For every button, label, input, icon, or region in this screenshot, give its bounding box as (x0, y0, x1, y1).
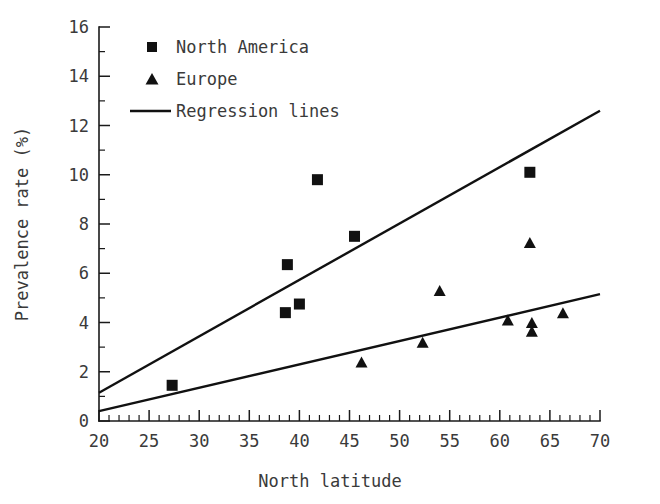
x-tick-label: 40 (289, 431, 309, 451)
x-tick-label: 30 (189, 431, 209, 451)
legend-item-label: Regression lines (176, 101, 340, 121)
y-tick-label: 10 (69, 165, 89, 185)
x-tick-label: 55 (439, 431, 459, 451)
data-point-square (294, 299, 305, 310)
regression-lines-group (99, 111, 600, 411)
x-tick-label: 35 (239, 431, 259, 451)
y-tick-label: 4 (79, 313, 89, 333)
y-axis-major-ticks (99, 27, 110, 421)
x-tick-label: 70 (590, 431, 610, 451)
data-point-square (524, 167, 535, 178)
y-tick-label: 14 (69, 66, 89, 86)
data-point-triangle (524, 237, 536, 248)
legend-item: North America (147, 37, 309, 57)
y-tick-label: 12 (69, 116, 89, 136)
legend-item-label: Europe (176, 69, 237, 89)
scatter-plot: 2025303540455055606570 0246810121416 Nor… (0, 0, 660, 504)
data-point-square (280, 307, 291, 318)
x-tick-label: 25 (139, 431, 159, 451)
series-europe (356, 237, 569, 367)
legend-item: Europe (146, 69, 238, 89)
y-tick-label: 16 (69, 17, 89, 37)
chart-container: 2025303540455055606570 0246810121416 Nor… (0, 0, 660, 504)
x-axis-major-ticks (99, 410, 600, 421)
y-tick-label: 0 (79, 411, 89, 431)
y-tick-label: 8 (79, 214, 89, 234)
data-point-triangle (434, 285, 446, 296)
data-point-triangle (557, 307, 569, 318)
x-axis-title: North latitude (258, 471, 401, 491)
data-point-square (312, 174, 323, 185)
data-point-triangle (356, 356, 368, 367)
data-point-square (167, 380, 178, 391)
legend-square-icon (147, 42, 157, 52)
x-tick-label: 65 (540, 431, 560, 451)
data-point-square (349, 231, 360, 242)
regression-line (99, 294, 600, 411)
y-axis-tick-labels: 0246810121416 (69, 17, 89, 431)
legend: North AmericaEuropeRegression lines (130, 37, 340, 121)
y-tick-label: 2 (79, 362, 89, 382)
x-tick-label: 60 (490, 431, 510, 451)
y-tick-label: 6 (79, 263, 89, 283)
regression-line (99, 111, 600, 393)
x-tick-label: 20 (89, 431, 109, 451)
data-point-triangle (417, 337, 429, 348)
legend-item-label: North America (176, 37, 309, 57)
x-axis-tick-labels: 2025303540455055606570 (89, 431, 610, 451)
x-tick-label: 45 (339, 431, 359, 451)
x-tick-label: 50 (389, 431, 409, 451)
y-axis-title: Prevalence rate (%) (12, 127, 32, 321)
series-north-america (167, 167, 536, 391)
legend-triangle-icon (146, 73, 159, 85)
legend-item: Regression lines (130, 101, 340, 121)
data-point-square (282, 259, 293, 270)
